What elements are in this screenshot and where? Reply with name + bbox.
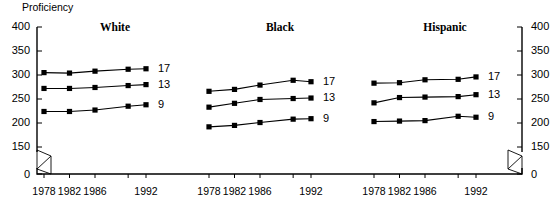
data-point-marker <box>126 104 131 109</box>
data-point-marker <box>67 109 72 114</box>
x-tick-label-1986-hispanic: 1986 <box>409 186 441 197</box>
data-point-marker <box>397 80 402 85</box>
series-label-age-13: 13 <box>158 79 170 90</box>
data-point-marker <box>422 118 427 123</box>
data-point-marker <box>143 82 148 87</box>
series-label-age-17: 17 <box>158 63 170 74</box>
data-point-marker <box>257 120 262 125</box>
data-point-marker <box>456 77 461 82</box>
data-point-marker <box>371 100 376 105</box>
x-tick-label-1992-black: 1992 <box>295 186 327 197</box>
data-point-marker <box>422 94 427 99</box>
data-point-marker <box>92 69 97 74</box>
data-point-marker <box>206 89 211 94</box>
x-tick-label-1986-black: 1986 <box>244 186 276 197</box>
data-point-marker <box>397 118 402 123</box>
data-point-marker <box>67 86 72 91</box>
data-point-marker <box>308 95 313 100</box>
data-point-marker <box>308 79 313 84</box>
series-label-age-9: 9 <box>158 99 164 110</box>
chart-canvas: Proficiency 400 350 300 250 200 150 0 40… <box>0 0 559 209</box>
data-point-marker <box>422 77 427 82</box>
data-point-marker <box>126 67 131 72</box>
x-tick-label-1992-hispanic: 1992 <box>460 186 492 197</box>
data-point-marker <box>291 96 296 101</box>
plot-area <box>0 0 559 209</box>
data-point-marker <box>143 66 148 71</box>
data-point-marker <box>41 109 46 114</box>
x-tick-label-1986-white: 1986 <box>79 186 111 197</box>
data-point-marker <box>291 117 296 122</box>
data-point-marker <box>232 87 237 92</box>
series-label-age-17: 17 <box>323 76 335 87</box>
data-point-marker <box>92 107 97 112</box>
series-label-age-13: 13 <box>323 92 335 103</box>
data-point-marker <box>206 124 211 129</box>
data-point-marker <box>257 97 262 102</box>
data-point-marker <box>291 78 296 83</box>
data-point-marker <box>371 81 376 86</box>
series-label-age-13: 13 <box>488 89 500 100</box>
data-point-marker <box>371 119 376 124</box>
data-point-marker <box>232 123 237 128</box>
series-label-age-17: 17 <box>488 71 500 82</box>
data-point-marker <box>143 102 148 107</box>
data-point-marker <box>41 86 46 91</box>
data-point-marker <box>126 83 131 88</box>
data-point-marker <box>232 101 237 106</box>
data-point-marker <box>41 70 46 75</box>
data-point-marker <box>67 70 72 75</box>
data-point-marker <box>473 74 478 79</box>
data-point-marker <box>473 92 478 97</box>
series-label-age-9: 9 <box>323 113 329 124</box>
x-tick-label-1992-white: 1992 <box>130 186 162 197</box>
series-label-age-9: 9 <box>488 111 494 122</box>
data-point-marker <box>92 85 97 90</box>
data-point-marker <box>456 94 461 99</box>
data-point-marker <box>308 116 313 121</box>
data-point-marker <box>473 115 478 120</box>
data-point-marker <box>257 82 262 87</box>
data-point-marker <box>456 114 461 119</box>
data-point-marker <box>206 105 211 110</box>
data-point-marker <box>397 95 402 100</box>
